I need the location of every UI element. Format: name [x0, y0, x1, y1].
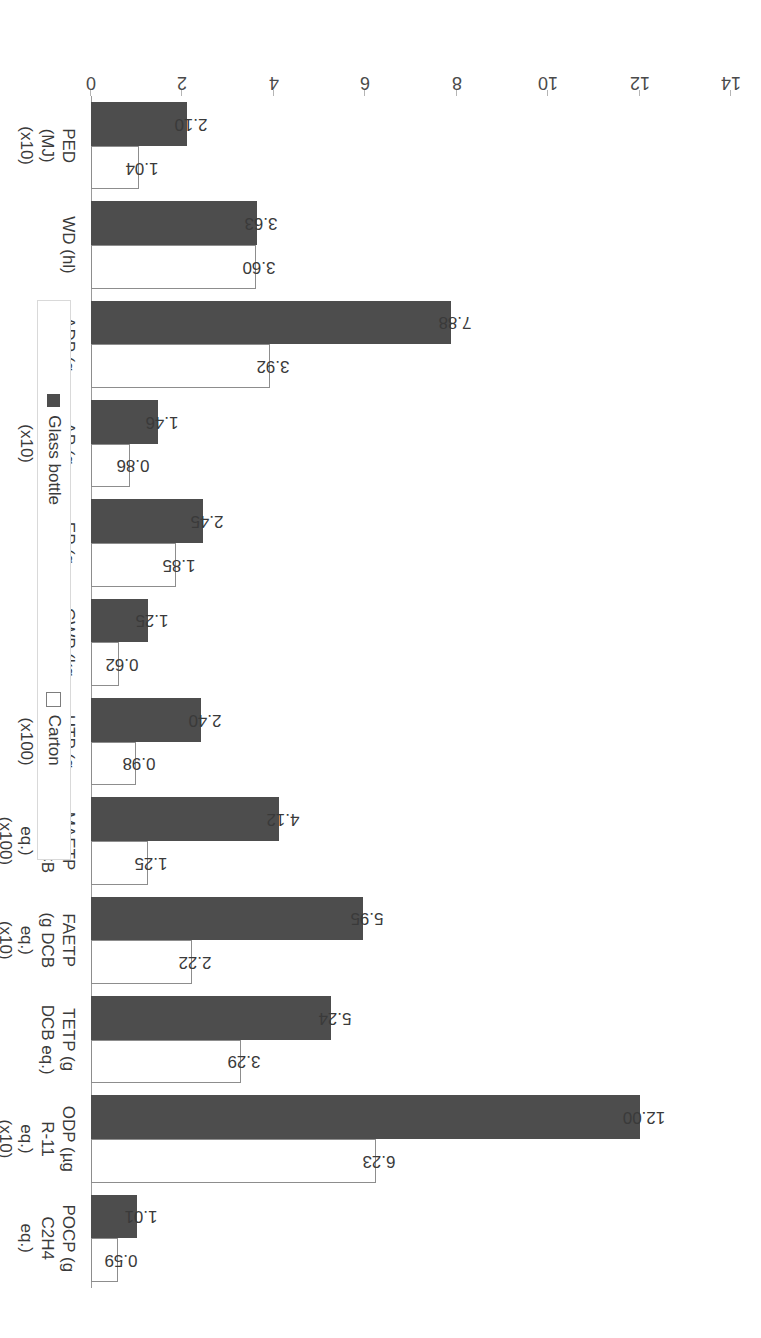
bar-glass[interactable]: 5.24 [91, 996, 331, 1040]
bar-glass[interactable]: 1.25 [91, 599, 148, 643]
bar-value-label: 0.86 [117, 455, 150, 475]
rotated-chart-frame: 02468101214 2.101.043.633.607.883.921.46… [0, 0, 761, 1338]
bar-group: 7.883.92 [91, 295, 731, 394]
bar-glass[interactable]: 1.46 [91, 400, 158, 444]
bar-slot: 3.63 [91, 201, 731, 245]
bar-group: 2.451.85 [91, 493, 731, 592]
bar-value-label: 4.12 [267, 809, 300, 829]
bar-value-label: 0.98 [122, 753, 155, 773]
bar-carton[interactable]: 0.86 [91, 444, 130, 488]
bar-slot: 1.01 [91, 1195, 731, 1239]
chart-legend: Glass bottleCarton [37, 300, 71, 860]
bar-glass[interactable]: 2.45 [91, 499, 203, 543]
bar-glass[interactable]: 3.63 [91, 201, 257, 245]
bar-value-label: 1.25 [135, 853, 168, 873]
bar-slot: 4.12 [91, 797, 731, 841]
bar-slot: 0.86 [91, 444, 731, 488]
category-label-slot: POCP (g C2H4 eq.) [5, 1189, 85, 1288]
bar-value-label: 12.00 [622, 1107, 665, 1127]
bar-slot: 12.00 [91, 1095, 731, 1139]
bar-glass[interactable]: 1.01 [91, 1195, 137, 1239]
bar-value-label: 1.46 [145, 412, 178, 432]
bar-value-label: 0.62 [106, 654, 139, 674]
bar-group: 2.400.98 [91, 692, 731, 791]
bar-glass[interactable]: 2.10 [91, 102, 187, 146]
bar-slot: 3.60 [91, 245, 731, 289]
bar-value-label: 5.24 [318, 1008, 351, 1028]
value-tick-label: 10 [528, 72, 568, 93]
bar-slot: 1.04 [91, 146, 731, 190]
bar-value-label: 1.25 [136, 610, 169, 630]
bar-slot: 1.46 [91, 400, 731, 444]
bar-glass[interactable]: 4.12 [91, 797, 279, 841]
bar-group: 1.460.86 [91, 394, 731, 493]
bar-value-label: 2.45 [190, 511, 223, 531]
bar-glass[interactable]: 5.95 [91, 897, 363, 941]
bar-slot: 0.59 [91, 1238, 731, 1282]
bar-group: 1.010.59 [91, 1189, 731, 1288]
bar-group: 4.121.25 [91, 791, 731, 890]
bar-value-label: 2.22 [179, 952, 212, 972]
bar-value-label: 3.92 [257, 356, 290, 376]
bar-slot: 1.85 [91, 543, 731, 587]
bar-group: 5.952.22 [91, 891, 731, 990]
bar-glass[interactable]: 7.88 [91, 301, 451, 345]
bar-value-label: 3.60 [242, 257, 275, 277]
bar-slot: 7.88 [91, 301, 731, 345]
bar-carton[interactable]: 2.22 [91, 940, 192, 984]
bar-slot: 0.98 [91, 742, 731, 786]
bar-carton[interactable]: 0.62 [91, 642, 119, 686]
bar-value-label: 5.95 [350, 908, 383, 928]
bar-slot: 2.40 [91, 698, 731, 742]
bar-carton[interactable]: 6.23 [91, 1139, 376, 1183]
bar-slot: 3.92 [91, 344, 731, 388]
bar-slot: 2.10 [91, 102, 731, 146]
bar-value-label: 1.85 [162, 555, 195, 575]
bar-group: 5.243.29 [91, 990, 731, 1089]
legend-swatch-icon [48, 394, 61, 407]
bar-value-label: 1.04 [125, 158, 158, 178]
bar-slot: 2.22 [91, 940, 731, 984]
plot-area: 02468101214 2.101.043.633.607.883.921.46… [91, 96, 731, 1288]
bar-carton[interactable]: 1.85 [91, 543, 176, 587]
bar-value-label: 7.88 [439, 312, 472, 332]
bar-carton[interactable]: 0.98 [91, 742, 136, 786]
chart-page: { "legend": { "position": "top-center", … [0, 0, 761, 1338]
bar-slot: 5.24 [91, 996, 731, 1040]
value-tick-label: 8 [437, 72, 477, 93]
legend-label: Carton [44, 715, 64, 766]
category-label-text: POCP (g C2H4 eq.) [16, 1163, 79, 1313]
bar-value-label: 2.10 [174, 114, 207, 134]
bar-carton[interactable]: 3.92 [91, 344, 270, 388]
bar-value-label: 6.23 [362, 1151, 395, 1171]
value-tick-label: 12 [620, 72, 660, 93]
bar-carton[interactable]: 3.29 [91, 1040, 241, 1084]
legend-item[interactable]: Glass bottle [44, 394, 64, 505]
bar-carton[interactable]: 1.25 [91, 841, 148, 885]
bar-group: 3.633.60 [91, 195, 731, 294]
bar-slot: 1.25 [91, 599, 731, 643]
bar-value-label: 3.29 [228, 1051, 261, 1071]
bar-value-label: 2.40 [188, 710, 221, 730]
value-tick-label: 6 [345, 72, 385, 93]
bar-glass[interactable]: 2.40 [91, 698, 201, 742]
legend-label: Glass bottle [44, 415, 64, 505]
bar-carton[interactable]: 0.59 [91, 1238, 118, 1282]
bar-slot: 0.62 [91, 642, 731, 686]
legend-item[interactable]: Carton [44, 692, 64, 766]
bar-slot: 3.29 [91, 1040, 731, 1084]
bar-slot: 5.95 [91, 897, 731, 941]
bar-glass[interactable]: 12.00 [91, 1095, 640, 1139]
bar-slot: 2.45 [91, 499, 731, 543]
bar-group: 1.250.62 [91, 593, 731, 692]
bar-carton[interactable]: 3.60 [91, 245, 256, 289]
bar-value-label: 0.59 [104, 1250, 137, 1270]
bar-groups: 2.101.043.633.607.883.921.460.862.451.85… [91, 96, 731, 1288]
bar-value-label: 3.63 [244, 213, 277, 233]
bar-slot: 6.23 [91, 1139, 731, 1183]
bar-carton[interactable]: 1.04 [91, 146, 139, 190]
value-tick-label: 2 [162, 72, 202, 93]
value-tick-label: 4 [254, 72, 294, 93]
bar-group: 12.006.23 [91, 1089, 731, 1188]
bar-slot: 1.25 [91, 841, 731, 885]
